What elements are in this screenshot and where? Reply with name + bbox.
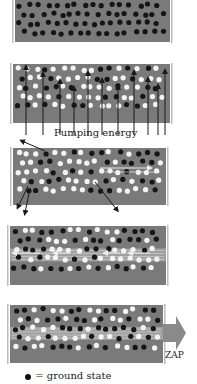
excited-atom	[31, 307, 36, 312]
ground-atom	[90, 2, 95, 7]
ground-atom	[51, 170, 56, 175]
ground-atom	[32, 31, 37, 36]
excited-atom	[25, 336, 30, 341]
excited-atom	[74, 179, 79, 184]
ground-atom	[127, 237, 132, 242]
excited-atom	[110, 237, 115, 242]
excited-atom	[61, 151, 66, 156]
excited-atom	[86, 264, 91, 269]
excited-atom	[56, 75, 61, 80]
ground-atom	[70, 168, 75, 173]
excited-atom	[66, 248, 71, 253]
excited-atom	[136, 334, 141, 339]
excited-atom	[77, 159, 82, 164]
ground-atom	[125, 65, 130, 70]
ground-atom	[99, 150, 104, 155]
ground-atom	[20, 76, 25, 81]
ground-atom	[154, 237, 159, 242]
ground-atom	[143, 307, 148, 312]
excited-atom	[158, 160, 163, 165]
ground-atom	[91, 238, 96, 243]
excited-atom	[150, 246, 155, 251]
excited-atom	[113, 76, 118, 81]
pumping-energy-label: Pumping energy	[54, 127, 138, 138]
ground-atom	[117, 238, 122, 243]
ground-atom	[88, 188, 93, 193]
ground-atom	[13, 327, 18, 332]
ground-atom	[87, 230, 92, 235]
ground-atom	[115, 31, 120, 36]
excited-atom	[62, 239, 67, 244]
ground-atom	[51, 10, 56, 15]
ground-atom	[131, 327, 136, 332]
mirror-right	[167, 147, 169, 206]
excited-atom	[46, 237, 51, 242]
excited-atom	[96, 95, 101, 100]
ground-atom	[133, 345, 138, 350]
ground-atom	[13, 229, 18, 234]
ground-atom	[121, 30, 126, 35]
excited-atom	[78, 150, 83, 155]
ground-atom	[149, 160, 154, 165]
ground-atom	[89, 334, 94, 339]
ground-atom	[96, 266, 101, 271]
ground-atom	[59, 31, 64, 36]
ground-atom	[67, 12, 72, 17]
ground-atom	[136, 237, 141, 242]
ground-atom	[72, 149, 77, 154]
excited-atom	[17, 150, 22, 155]
ground-atom	[41, 246, 46, 251]
ground-atom	[49, 230, 54, 235]
excited-atom	[107, 168, 112, 173]
ground-atom	[46, 334, 51, 339]
ground-atom	[120, 177, 125, 182]
ground-atom	[154, 21, 159, 26]
ground-atom	[96, 31, 101, 36]
excited-atom	[41, 327, 46, 332]
ground-atom	[61, 13, 66, 18]
ground-atom	[60, 228, 65, 233]
excited-atom	[121, 248, 126, 253]
ground-atom	[129, 161, 134, 166]
excited-atom	[54, 239, 59, 244]
excited-atom	[150, 94, 155, 99]
excited-atom	[160, 95, 165, 100]
excited-atom	[34, 318, 39, 323]
ground-atom	[96, 12, 101, 17]
excited-atom	[16, 65, 21, 70]
ground-atom	[135, 103, 140, 108]
excited-atom	[50, 247, 55, 252]
excited-atom	[111, 177, 116, 182]
excited-atom	[81, 334, 86, 339]
excited-atom	[71, 186, 76, 191]
ground-atom	[28, 22, 33, 27]
excited-atom	[118, 256, 123, 261]
excited-atom	[23, 228, 28, 233]
ground-atom	[132, 229, 137, 234]
excited-atom	[146, 257, 151, 262]
excited-atom	[71, 65, 76, 70]
ground-atom	[112, 308, 117, 313]
ground-atom	[122, 228, 127, 233]
ground-atom	[71, 2, 76, 7]
excited-atom	[66, 177, 71, 182]
excited-atom	[46, 94, 51, 99]
ground-atom	[31, 266, 36, 271]
ground-atom	[20, 325, 25, 330]
laser-diagram: Pumping energyZAP	[0, 0, 197, 384]
excited-atom	[81, 84, 86, 89]
ground-atom	[136, 151, 141, 156]
excited-atom	[122, 95, 127, 100]
ground-atom	[106, 246, 111, 251]
excited-atom	[78, 170, 83, 175]
ground-atom	[89, 151, 94, 156]
excited-atom	[115, 170, 120, 175]
ground-atom	[116, 336, 121, 341]
ground-atom	[16, 4, 21, 9]
ground-atom	[151, 308, 156, 313]
excited-atom	[107, 334, 112, 339]
ground-atom	[115, 264, 120, 269]
excited-atom	[106, 103, 111, 108]
ground-atom	[100, 20, 105, 25]
excited-atom	[43, 187, 48, 192]
